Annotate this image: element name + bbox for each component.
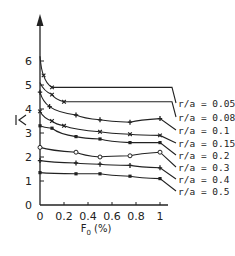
x-tick-label: 0.6 [103,210,121,223]
plus-marker-icon [128,163,132,168]
x-tick-label: 0.2 [55,210,73,223]
x-axis-title: F0 (%) [81,223,112,237]
series-label: r/a = 0.2 [178,150,229,161]
series-label: r/a = 0.08 [178,112,235,123]
series-line [40,161,176,179]
square-marker-icon [128,141,131,144]
circle-marker-icon [98,155,102,159]
series-line [40,56,176,103]
circle-marker-icon [38,145,42,149]
series-line [40,92,176,130]
square-marker-icon [128,175,131,178]
line-chart: 012345600.20.40.60.81F0 (%) r/a = 0.05r/… [0,0,235,256]
y-axis-title [16,115,26,125]
square-marker-icon [74,172,77,175]
series-line [40,173,176,191]
x-tick-label: 0.4 [79,210,97,223]
series-label: r/a = 0.1 [178,125,230,136]
square-marker-icon [38,124,41,127]
x-tick-label: 0 [37,210,44,223]
series-line [40,147,176,167]
x-tick-label: 0.8 [127,210,145,223]
square-marker-icon [158,141,161,144]
y-tick-label: 5 [25,79,32,92]
plus-marker-icon [98,117,102,122]
plus-marker-icon [38,90,42,95]
y-tick-label: 3 [25,127,32,140]
plus-marker-icon [74,161,78,166]
square-marker-icon [98,172,101,175]
circle-marker-icon [74,150,78,154]
y-tick-label: 4 [25,103,32,116]
square-marker-icon [98,137,101,140]
y-tick-label: 2 [25,151,32,164]
y-tick-label: 0 [25,199,32,212]
series-labels: r/a = 0.05r/a = 0.08r/a = 0.1r/a = 0.15r… [178,98,235,197]
y-tick-label: 1 [25,175,32,188]
series-line [40,111,176,143]
plus-marker-icon [158,165,162,170]
square-marker-icon [158,177,161,180]
series-label: r/a = 0.15 [178,138,235,149]
series-label: r/a = 0.5 [178,186,229,197]
series-label: r/a = 0.05 [178,98,235,109]
plus-marker-icon [74,113,78,118]
square-marker-icon [74,135,77,138]
plus-marker-icon [98,162,102,167]
plus-marker-icon [38,158,42,163]
y-axis-arrow-icon [37,14,44,26]
series-label: r/a = 0.3 [178,162,229,173]
series-label: r/a = 0.4 [178,174,230,185]
circle-marker-icon [128,154,132,158]
plus-marker-icon [128,120,132,125]
y-tick-label: 6 [25,55,32,68]
circle-marker-icon [158,150,162,154]
square-marker-icon [50,127,53,130]
square-marker-icon [38,171,41,174]
curves [38,56,176,191]
x-tick-label: 1 [157,210,164,223]
